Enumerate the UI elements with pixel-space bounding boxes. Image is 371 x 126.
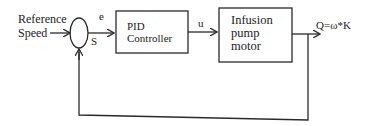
control-signal-label: u (198, 18, 204, 29)
input-label-line2: Speed (18, 27, 47, 39)
output-label: Q=ω*K (316, 20, 351, 31)
plant-label-line3: motor (231, 40, 273, 53)
sign-label: S (91, 36, 97, 47)
control-block-diagram: Reference Speed e S PID Controller u Inf… (0, 0, 371, 126)
pid-block-label: PID Controller (127, 21, 172, 44)
input-label-line1: Reference (18, 13, 67, 25)
summing-junction (70, 18, 88, 48)
pid-label-line2: Controller (127, 33, 172, 45)
error-signal-label: e (99, 11, 104, 22)
feedback-path (79, 34, 308, 120)
pid-label-line1: PID (127, 21, 172, 33)
plant-block-label: Infusion pump motor (231, 14, 273, 53)
